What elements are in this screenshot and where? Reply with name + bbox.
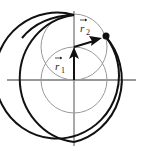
- label-r2-subscript: 2: [86, 28, 90, 37]
- label-r1: r 1: [55, 57, 65, 76]
- outer-trajectory-curve: [0, 13, 119, 139]
- label-r1-letter: r: [55, 60, 60, 72]
- rotating-vectors-diagram: r 1 r 2: [0, 0, 144, 151]
- label-r2-letter: r: [80, 22, 85, 34]
- label-r1-subscript: 1: [61, 66, 65, 75]
- vector-r2-shaft: [74, 41, 94, 47]
- endpoint-dot: [103, 33, 110, 40]
- label-r2: r 2: [80, 19, 90, 38]
